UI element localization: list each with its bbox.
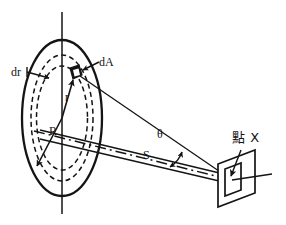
diagram-canvas — [0, 0, 286, 225]
label-S: S — [143, 149, 150, 161]
cone-edge-lower — [40, 139, 232, 184]
label-point-x: 點 X — [232, 131, 260, 144]
label-R: R — [49, 125, 57, 137]
figure-root: dr dA r R θ S 點 X — [0, 0, 286, 225]
label-dr: dr — [11, 66, 21, 78]
S-axis-dashdot-line — [34, 131, 236, 181]
point-x-detector-plane — [218, 150, 255, 207]
label-dA: dA — [99, 56, 114, 68]
cone-edge-upper — [40, 130, 232, 176]
label-r: r — [65, 91, 69, 103]
label-theta: θ — [157, 128, 163, 140]
